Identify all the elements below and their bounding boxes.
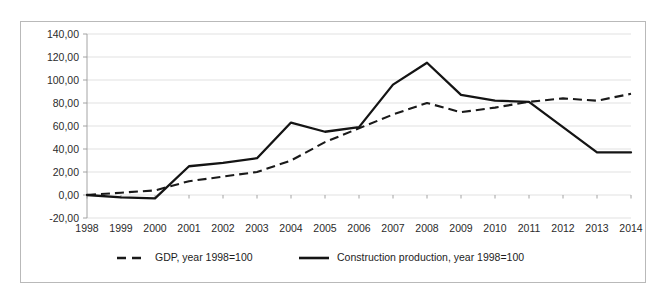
x-axis-tick-label: 2000 xyxy=(143,222,167,234)
y-axis-tick-label: 40,00 xyxy=(53,143,79,155)
x-axis-tick-label: 2008 xyxy=(415,222,439,234)
x-axis-tick-label: 2001 xyxy=(177,222,201,234)
y-axis-tick-label: 140,00 xyxy=(47,28,79,40)
legend-label: Construction production, year 1998=100 xyxy=(337,251,524,263)
series-line-construction xyxy=(87,63,631,199)
x-axis-tick-label: 2014 xyxy=(619,222,643,234)
legend-label: GDP, year 1998=100 xyxy=(155,251,253,263)
x-axis-tick-label: 2002 xyxy=(211,222,235,234)
x-axis-tick-label: 2003 xyxy=(245,222,269,234)
x-axis-tick-label: 2006 xyxy=(347,222,371,234)
series-line-gdp xyxy=(87,94,631,195)
y-axis-tick-label: 80,00 xyxy=(53,97,79,109)
chart-plot-area: 140,00120,00100,0080,0060,0040,0020,000,… xyxy=(21,22,647,284)
data-series-group xyxy=(87,63,631,199)
y-axis-tick-label: 0,00 xyxy=(59,189,80,201)
y-axis-tick-label: 20,00 xyxy=(53,166,79,178)
x-axis-tick-label: 1999 xyxy=(109,222,133,234)
chart-card: 140,00120,00100,0080,0060,0040,0020,000,… xyxy=(20,21,646,283)
y-axis-tick-label: 100,00 xyxy=(47,74,79,86)
x-axis-tick-label: 2010 xyxy=(483,222,507,234)
x-axis-tick-label: 1998 xyxy=(75,222,99,234)
x-axis-tick-label: 2012 xyxy=(551,222,575,234)
line-chart: 140,00120,00100,0080,0060,0040,0020,000,… xyxy=(21,22,647,284)
x-axis-tick-label: 2005 xyxy=(313,222,337,234)
x-axis-tick-label: 2004 xyxy=(279,222,303,234)
y-axis-tick-labels: 140,00120,00100,0080,0060,0040,0020,000,… xyxy=(47,28,79,224)
x-axis-tick-labels: 1998199920002001200220032004200520062007… xyxy=(75,222,643,234)
x-axis-tick-label: 2013 xyxy=(585,222,609,234)
chart-legend: GDP, year 1998=100Construction productio… xyxy=(117,251,524,263)
y-axis-tick-label: 120,00 xyxy=(47,51,79,63)
x-axis-tick-label: 2007 xyxy=(381,222,405,234)
x-axis-tick-label: 2011 xyxy=(518,222,541,234)
y-axis-tick-label: 60,00 xyxy=(53,120,79,132)
x-axis-tick-label: 2009 xyxy=(449,222,473,234)
